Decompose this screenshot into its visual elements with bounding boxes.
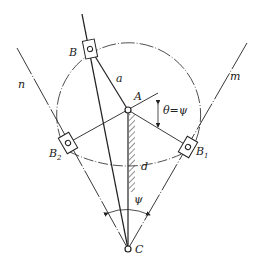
label-c: C <box>135 243 144 256</box>
label-b1: B1 <box>195 145 209 160</box>
pivot-a <box>125 107 131 113</box>
slider-b <box>82 39 97 59</box>
crank-circle <box>57 43 201 145</box>
diagram-svg: B A a θ=ψ n m B2 B1 d ψ C <box>0 0 257 267</box>
label-m: m <box>230 70 240 83</box>
psi-arc <box>108 209 150 215</box>
label-d: d <box>141 160 148 173</box>
pivot-c <box>125 246 131 252</box>
label-a-length: a <box>116 72 123 85</box>
label-theta-psi: θ=ψ <box>163 104 188 117</box>
label-psi: ψ <box>134 193 143 206</box>
slider-b2 <box>58 132 77 154</box>
mechanism-diagram: B A a θ=ψ n m B2 B1 d ψ C <box>0 0 257 267</box>
label-b: B <box>68 46 77 59</box>
label-n: n <box>18 78 25 91</box>
crank-ab2 <box>68 93 158 143</box>
label-a-point: A <box>133 90 142 103</box>
crank-ab <box>93 53 128 110</box>
frame-hatch <box>129 114 135 192</box>
label-b2: B2 <box>48 147 62 162</box>
